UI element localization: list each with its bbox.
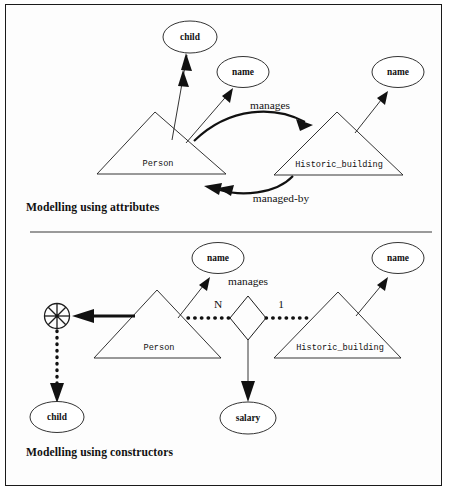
figure-frame [5,4,442,486]
figure-page: Person Historic_building child name [0,0,449,497]
caption-constructors: Modelling using constructors [26,446,173,459]
panel-divider [30,231,432,233]
caption-attributes: Modelling using attributes [26,201,159,214]
